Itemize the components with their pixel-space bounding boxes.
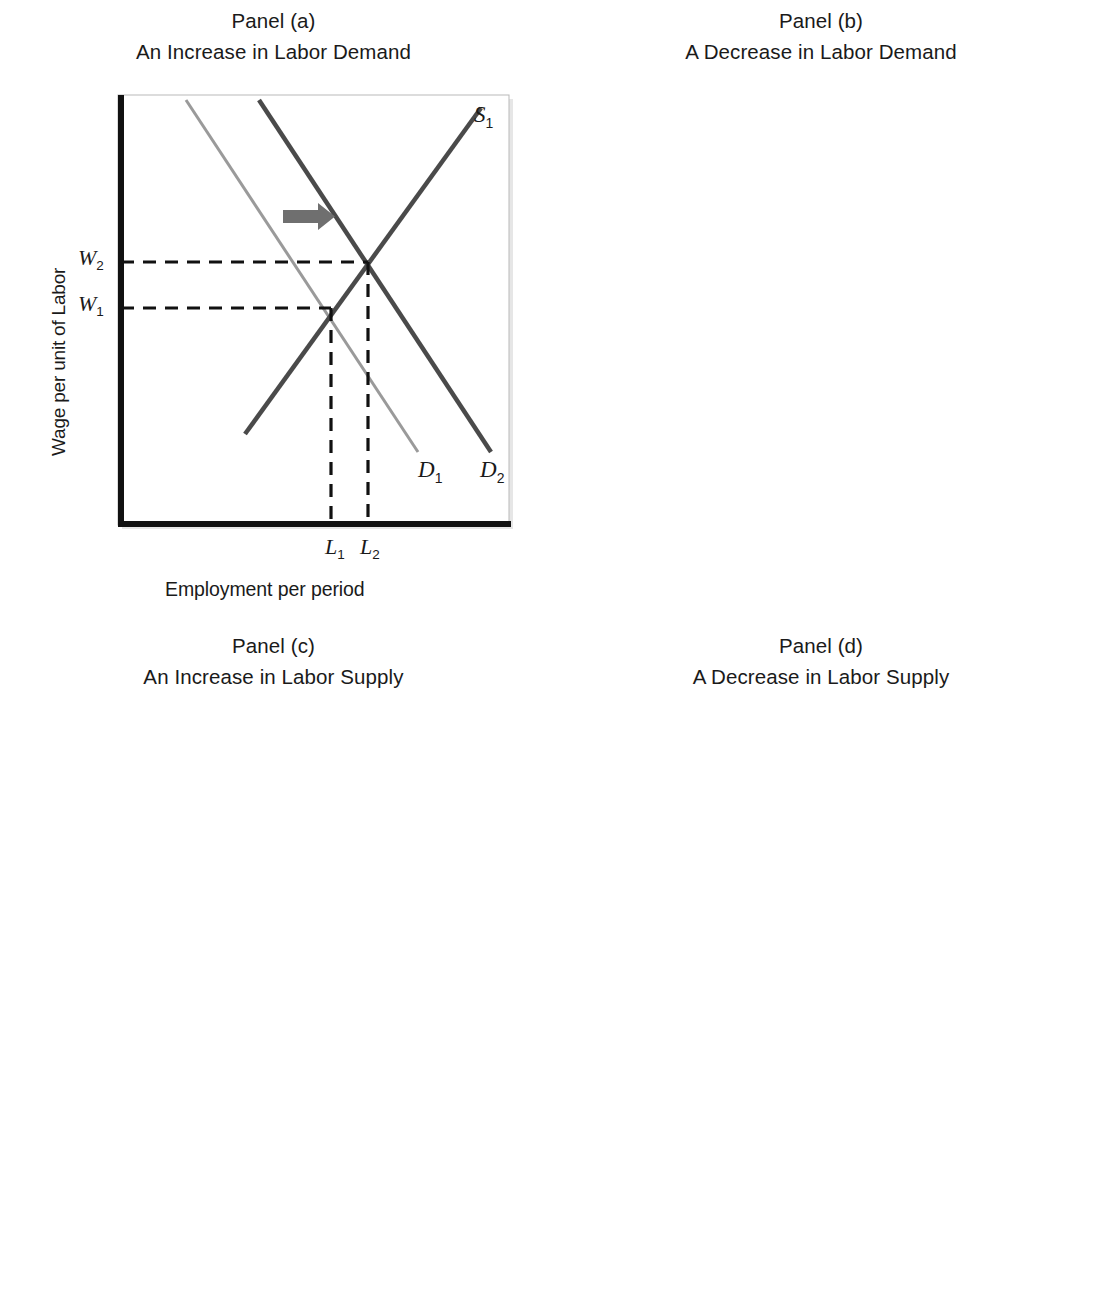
panel-grid: Panel (a) An Increase in Labor Demand Wa…	[0, 0, 1095, 1295]
panel-b-heading: Panel (b) A Decrease in Labor Demand	[547, 0, 1095, 68]
panel-d-plot: S2 S1 D1	[0, 0, 548, 670]
panel-d-id: Panel (d)	[547, 631, 1095, 661]
panel-b: Panel (b) A Decrease in Labor Demand Wag…	[547, 0, 1095, 625]
panel-d-subtitle: A Decrease in Labor Supply	[547, 661, 1095, 693]
panel-d-heading: Panel (d) A Decrease in Labor Supply	[547, 625, 1095, 693]
panel-d: Panel (d) A Decrease in Labor Supply Wag…	[547, 625, 1095, 1295]
panel-b-subtitle: A Decrease in Labor Demand	[547, 36, 1095, 68]
panel-c: Panel (c) An Increase in Labor Supply Wa…	[0, 625, 547, 1295]
panel-b-id: Panel (b)	[547, 6, 1095, 36]
